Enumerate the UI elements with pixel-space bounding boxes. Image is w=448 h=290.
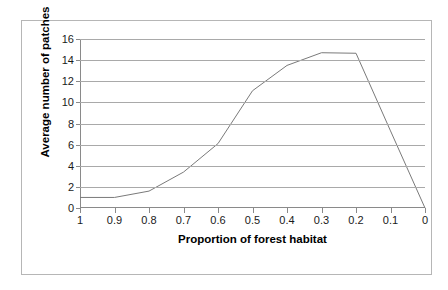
plot-area xyxy=(80,39,425,208)
x-axis-tick-labels: 10.90.80.70.60.50.40.30.20.10 xyxy=(80,214,425,230)
y-tick-mark xyxy=(76,81,80,82)
x-tick-label: 0.2 xyxy=(348,214,363,226)
gridline xyxy=(80,187,425,188)
y-tick-mark xyxy=(76,166,80,167)
x-tick-mark xyxy=(253,208,254,213)
y-tick-label: 0 xyxy=(68,202,74,214)
x-tick-mark xyxy=(356,208,357,213)
x-tick-label: 0.5 xyxy=(245,214,260,226)
x-tick-mark xyxy=(218,208,219,213)
gridline xyxy=(80,124,425,125)
x-tick-label: 0.9 xyxy=(107,214,122,226)
x-tick-mark xyxy=(391,208,392,213)
gridline xyxy=(80,145,425,146)
y-tick-mark xyxy=(76,124,80,125)
chart-screenshot: Average number of patches 0246810121416 … xyxy=(0,0,448,290)
gridline xyxy=(80,39,425,40)
y-tick-mark xyxy=(76,145,80,146)
x-tick-label: 0.8 xyxy=(141,214,156,226)
y-tick-mark xyxy=(76,60,80,61)
y-tick-label: 6 xyxy=(68,139,74,151)
x-axis-tick-marks xyxy=(80,208,425,213)
series-line xyxy=(80,53,425,208)
y-tick-mark xyxy=(76,39,80,40)
x-tick-label: 1 xyxy=(77,214,83,226)
x-tick-label: 0.7 xyxy=(176,214,191,226)
x-tick-mark xyxy=(149,208,150,213)
y-tick-label: 8 xyxy=(68,118,74,130)
x-tick-mark xyxy=(80,208,81,213)
gridline xyxy=(80,60,425,61)
y-tick-mark xyxy=(76,102,80,103)
gridline xyxy=(80,166,425,167)
y-tick-label: 16 xyxy=(62,33,74,45)
x-tick-label: 0.3 xyxy=(314,214,329,226)
x-tick-label: 0.6 xyxy=(210,214,225,226)
y-tick-label: 10 xyxy=(62,96,74,108)
chart-frame: Average number of patches 0246810121416 … xyxy=(21,20,432,275)
x-tick-mark xyxy=(287,208,288,213)
y-axis-tick-labels: 0246810121416 xyxy=(40,39,74,208)
x-tick-mark xyxy=(425,208,426,213)
y-tick-label: 14 xyxy=(62,54,74,66)
gridline xyxy=(80,102,425,103)
y-tick-label: 12 xyxy=(62,75,74,87)
x-axis-title: Proportion of forest habitat xyxy=(80,233,425,245)
gridline xyxy=(80,81,425,82)
y-tick-label: 2 xyxy=(68,181,74,193)
y-tick-mark xyxy=(76,187,80,188)
x-tick-label: 0.4 xyxy=(279,214,294,226)
y-tick-label: 4 xyxy=(68,160,74,172)
x-tick-label: 0.1 xyxy=(383,214,398,226)
x-tick-mark xyxy=(322,208,323,213)
x-tick-label: 0 xyxy=(422,214,428,226)
x-tick-mark xyxy=(115,208,116,213)
x-tick-mark xyxy=(184,208,185,213)
